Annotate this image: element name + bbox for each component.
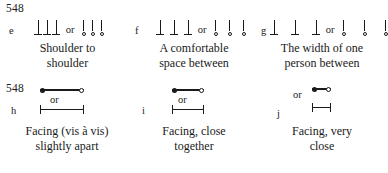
or-label-h: or	[50, 95, 59, 106]
open-dot-icon	[199, 88, 204, 93]
caption-j-line1: Facing, very	[292, 124, 352, 138]
connector-line	[172, 109, 204, 110]
pin-circle-icon	[360, 20, 369, 37]
caption-f-line2: space between	[131, 56, 257, 71]
pin-foot-icon	[312, 20, 321, 37]
pin-circle-icon	[88, 20, 97, 37]
row-tag-548-bottom: 548	[6, 82, 24, 94]
caption-h-line2: slightly apart	[3, 139, 131, 154]
pin-circle-icon	[339, 20, 348, 37]
group-key-e: e	[9, 25, 14, 36]
caption-i: Facing, close together	[131, 124, 257, 153]
facing-dumbbell-j	[312, 85, 331, 94]
caption-f-line1: A comfortable	[160, 41, 229, 55]
pin-foot-icon	[291, 20, 300, 37]
caption-g-line2: person between	[258, 56, 386, 71]
pin-foot-icon	[170, 20, 179, 37]
open-dot-icon	[326, 87, 331, 92]
group-key-i: i	[142, 105, 145, 116]
group-key-g: g	[261, 25, 266, 36]
caption-j-line2: close	[258, 139, 386, 154]
group-key-f: f	[135, 25, 139, 36]
group-key-h: h	[11, 105, 16, 116]
facing-ibeam-h	[40, 105, 84, 114]
pins-feet-f	[156, 20, 193, 37]
tick-left-icon	[312, 103, 313, 112]
group-key-j: j	[277, 108, 280, 119]
row-tag-548-top: 548	[6, 2, 24, 14]
facing-ibeam-i	[172, 105, 204, 114]
pin-foot-icon	[184, 20, 193, 37]
caption-e-line2: shoulder	[5, 56, 130, 71]
pins-circle-f	[211, 20, 248, 37]
symbol-row-e: or	[20, 17, 120, 37]
pins-circle-g	[339, 20, 388, 37]
or-label-f: or	[193, 25, 212, 36]
caption-i-line1: Facing, close	[162, 124, 225, 138]
connector-line	[40, 109, 84, 110]
tick-left-icon	[172, 105, 173, 114]
caption-j: Facing, very close	[258, 124, 386, 153]
pin-foot-icon	[270, 20, 279, 37]
tick-right-icon	[83, 105, 84, 114]
pin-foot-icon	[34, 20, 43, 37]
notation-figure: 548 e or Shoulder to shoulder f or	[0, 0, 388, 173]
pins-circle-e	[79, 20, 106, 37]
or-label-e: or	[61, 25, 80, 36]
pin-circle-icon	[225, 20, 234, 37]
facing-ibeam-j	[312, 103, 331, 112]
symbol-row-f: or	[147, 17, 257, 37]
caption-h-line1: Facing (vis à vis)	[26, 124, 109, 138]
caption-g: The width of one person between	[258, 41, 386, 70]
caption-f: A comfortable space between	[131, 41, 257, 70]
caption-h: Facing (vis à vis) slightly apart	[3, 124, 131, 153]
tick-right-icon	[330, 103, 331, 112]
pin-foot-icon	[52, 20, 61, 37]
pin-circle-icon	[239, 20, 248, 37]
open-dot-icon	[79, 88, 84, 93]
pin-foot-icon	[156, 20, 165, 37]
filled-dot-icon	[172, 88, 177, 93]
pin-foot-icon	[43, 20, 52, 37]
or-label-j: or	[293, 90, 302, 101]
pins-feet-e	[34, 20, 61, 37]
caption-e: Shoulder to shoulder	[5, 41, 130, 70]
pin-circle-icon	[79, 20, 88, 37]
caption-e-line1: Shoulder to	[40, 41, 96, 55]
pin-circle-icon	[381, 20, 388, 37]
caption-i-line2: together	[131, 139, 257, 154]
caption-g-line1: The width of one	[281, 41, 363, 55]
facing-dumbbell-h	[40, 86, 84, 95]
pins-feet-g	[270, 20, 321, 37]
facing-dumbbell-i	[172, 86, 204, 95]
or-label-g: or	[321, 25, 340, 36]
tick-right-icon	[203, 105, 204, 114]
pin-circle-icon	[97, 20, 106, 37]
or-label-i: or	[178, 95, 187, 106]
tick-left-icon	[40, 105, 41, 114]
filled-dot-icon	[312, 87, 317, 92]
filled-dot-icon	[40, 88, 45, 93]
connector-line	[40, 89, 84, 90]
connector-line	[312, 107, 331, 108]
pin-circle-icon	[211, 20, 220, 37]
symbol-row-g: or	[272, 17, 388, 37]
